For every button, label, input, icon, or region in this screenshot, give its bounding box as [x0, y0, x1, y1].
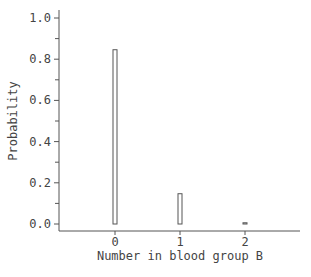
x-tick-label: 0 — [111, 235, 118, 249]
ticks: 0.00.20.40.60.81.0012 — [29, 11, 248, 249]
y-tick-label: 1.0 — [29, 11, 51, 25]
x-tick-label: 2 — [241, 235, 248, 249]
x-tick-label: 1 — [176, 235, 183, 249]
y-tick-label: 0.4 — [29, 135, 51, 149]
chart: 0.00.20.40.60.81.0012 Number in blood gr… — [0, 0, 311, 277]
bar-1 — [178, 194, 182, 224]
bar-0 — [113, 50, 117, 224]
y-tick-label: 0.0 — [29, 217, 51, 231]
bars — [113, 50, 247, 224]
y-tick-label: 0.8 — [29, 52, 51, 66]
x-axis-label: Number in blood group B — [97, 249, 263, 263]
y-tick-label: 0.2 — [29, 176, 51, 190]
y-tick-label: 0.6 — [29, 93, 51, 107]
y-axis-label: Probability — [6, 81, 20, 160]
bar-2 — [243, 223, 247, 224]
